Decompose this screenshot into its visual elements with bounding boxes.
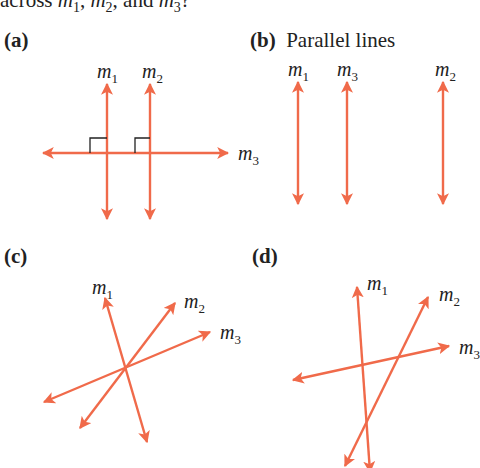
panel-d-line-m3 <box>293 346 449 380</box>
panel-d-label-m1: m1 <box>367 272 388 299</box>
panel-a-label-m1: m1 <box>97 60 118 87</box>
panel-d-line-m1 <box>357 287 370 468</box>
panel-a-label-m2: m2 <box>142 60 163 87</box>
panel-c-line-m3 <box>44 332 210 402</box>
right-angle-mark-2 <box>135 138 150 153</box>
panel-b-label-m1: m1 <box>288 58 309 85</box>
panel-c-label-m2: m2 <box>184 290 205 317</box>
panel-c-label-m3: m3 <box>220 321 241 348</box>
panel-d-label-m3: m3 <box>459 336 480 363</box>
panel-c-label-m1: m1 <box>92 276 113 303</box>
panel-d-label-m2: m2 <box>439 283 460 310</box>
right-angle-mark-1 <box>90 138 107 153</box>
panel-c-line-m1 <box>105 298 147 442</box>
panel-d-line-m2 <box>345 297 428 466</box>
panel-b-label-m3: m3 <box>337 58 358 85</box>
panel-b-label-m2: m2 <box>435 58 456 85</box>
panel-a-label-m3: m3 <box>238 142 259 169</box>
